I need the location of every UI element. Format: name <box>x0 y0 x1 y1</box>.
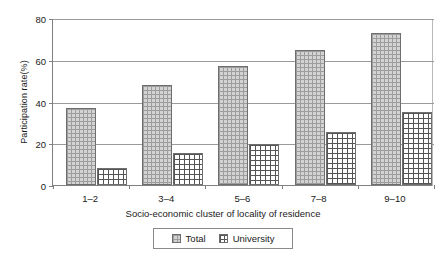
x-axis-label-3: 7–8 <box>281 193 357 204</box>
legend-item-university[interactable]: University <box>219 233 275 244</box>
x-axis-title: Socio-economic cluster of locality of re… <box>0 208 446 219</box>
bar-group <box>129 19 205 185</box>
bar-group <box>282 19 358 185</box>
bar-university-0 <box>97 168 127 185</box>
plot-area: 020406080 <box>52 19 433 186</box>
bar-group <box>53 19 129 185</box>
y-axis-label-80: 80 <box>35 15 46 24</box>
legend-item-total[interactable]: Total <box>172 233 206 244</box>
y-axis-label-20: 20 <box>35 140 46 149</box>
legend-label-university: University <box>233 233 275 244</box>
bar-group <box>358 19 434 185</box>
bar-total-4 <box>371 33 401 185</box>
x-axis-label-0: 1–2 <box>52 193 128 204</box>
y-axis-label-40: 40 <box>35 98 46 107</box>
x-axis-label-4: 9–10 <box>357 193 433 204</box>
bar-total-3 <box>295 50 325 185</box>
y-axis-label-60: 60 <box>35 56 46 65</box>
x-axis-label-2: 5–6 <box>204 193 280 204</box>
legend-label-total: Total <box>186 233 206 244</box>
x-axis-label-1: 3–4 <box>128 193 204 204</box>
x-tick-4 <box>434 185 435 189</box>
university-swatch-icon <box>219 234 228 243</box>
x-tick-1 <box>205 185 206 189</box>
bar-chart: Participation rate(%) 020406080 Socio-ec… <box>0 0 446 260</box>
bar-total-2 <box>218 66 248 185</box>
y-axis-label-0: 0 <box>41 182 46 191</box>
bar-university-1 <box>173 153 203 185</box>
bar-university-2 <box>249 144 279 185</box>
bar-university-4 <box>402 112 432 185</box>
x-tick-origin <box>53 185 54 189</box>
total-swatch-icon <box>172 234 181 243</box>
bar-university-3 <box>326 132 356 185</box>
chart-legend: Total University <box>153 228 293 249</box>
x-tick-3 <box>358 185 359 189</box>
x-tick-0 <box>129 185 130 189</box>
x-tick-2 <box>282 185 283 189</box>
bar-group <box>205 19 281 185</box>
bar-total-0 <box>66 108 96 185</box>
bar-total-1 <box>142 85 172 185</box>
y-axis-title: Participation rate(%) <box>19 17 29 187</box>
